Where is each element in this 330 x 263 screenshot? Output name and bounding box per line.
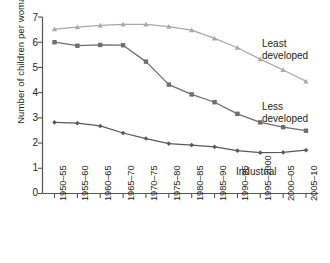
data-point xyxy=(304,129,308,133)
data-point xyxy=(235,112,239,116)
data-point xyxy=(52,120,57,125)
data-point xyxy=(281,150,286,155)
data-point xyxy=(75,121,80,126)
fertility-line-chart: Number of children per woman 7 6 5 4 3 2… xyxy=(0,0,330,263)
data-point xyxy=(121,131,126,136)
data-point xyxy=(52,40,56,44)
x-tick-label-0: 1950–55 xyxy=(59,165,68,201)
series-label-least-developed-line2: developed xyxy=(262,50,308,62)
data-point xyxy=(167,141,172,146)
data-point xyxy=(281,125,285,129)
data-point xyxy=(212,145,217,150)
data-point xyxy=(189,92,193,96)
series-label-least-developed-line1: Least xyxy=(262,38,308,50)
x-tick-label-7: 1985–90 xyxy=(219,165,228,201)
x-tick-label-4: 1970–75 xyxy=(150,165,159,201)
series-label-less-developed-line1: Less xyxy=(262,101,308,113)
data-point xyxy=(144,136,149,141)
x-tick-label-3: 1965–70 xyxy=(127,165,136,201)
data-point xyxy=(121,43,125,47)
series-line xyxy=(55,122,307,152)
data-point xyxy=(212,100,216,104)
data-point xyxy=(258,150,263,155)
series-industrial xyxy=(52,120,308,155)
data-point xyxy=(235,148,240,153)
x-tick-label-10: 2000–05 xyxy=(287,165,296,201)
series-label-least-developed: Least developed xyxy=(262,38,308,61)
x-tick-label-2: 1960–65 xyxy=(104,165,113,201)
data-point xyxy=(304,148,309,153)
series-label-industrial: Industrial xyxy=(236,166,277,178)
x-tick-label-6: 1980–85 xyxy=(196,165,205,201)
series-label-less-developed: Less developed xyxy=(262,101,308,124)
x-tick-label-5: 1975–80 xyxy=(173,165,182,201)
data-point xyxy=(75,44,79,48)
data-point xyxy=(167,82,171,86)
data-point xyxy=(98,43,102,47)
x-tick-label-9: 1995–2000 xyxy=(264,155,273,201)
x-tick-label-11: 2005–10 xyxy=(310,165,319,201)
data-point xyxy=(189,143,194,148)
series-label-less-developed-line2: developed xyxy=(262,113,308,125)
x-tick-label-1: 1955–60 xyxy=(81,165,90,201)
data-point xyxy=(98,124,103,129)
data-point xyxy=(144,59,148,63)
